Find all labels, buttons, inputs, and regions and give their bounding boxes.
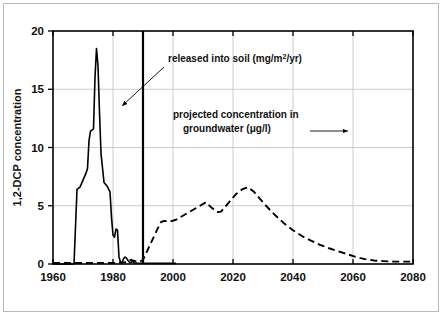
x-tick-label: 2040 [280,271,306,283]
x-axis-tick-labels: 1960198020002020204020602080 [40,271,426,283]
chart-figure: 1960198020002020204020602080 05101520 1,… [0,0,443,316]
annotation-text-released-into-soil: released into soil (mg/m2/yr) [168,53,302,64]
y-tick-label: 15 [31,83,44,95]
x-tick-label: 1980 [100,271,126,283]
x-tick-label: 1960 [40,271,66,283]
x-tick-label: 2080 [400,271,426,283]
annotation-text-projected-line1: projected concentration in [173,109,299,120]
x-tick-label: 2060 [340,271,366,283]
y-tick-label: 20 [31,25,44,37]
y-axis-title-label: 1,2-DCP concentration [11,88,23,206]
grid-lines [53,31,413,264]
annotation-released-into-soil: released into soil (mg/m2/yr) [122,53,302,106]
y-tick-label: 5 [38,200,45,212]
x-tick-label: 2020 [220,271,246,283]
annotation-text-projected-line2: groundwater (μg/l) [183,123,271,134]
chart-canvas: 1960198020002020204020602080 05101520 1,… [0,0,443,316]
y-tick-label: 0 [38,258,44,270]
y-axis-title: 1,2-DCP concentration [11,88,23,206]
x-tick-label: 2000 [160,271,186,283]
series-line-released-into-soil [53,48,176,264]
y-axis-tick-labels: 05101520 [31,25,44,270]
chart-annotations: released into soil (mg/m2/yr)projected c… [122,53,348,134]
annotation-projected-concentration-groundwater: projected concentration ingroundwater (μ… [173,109,348,134]
y-tick-label: 10 [31,142,44,154]
